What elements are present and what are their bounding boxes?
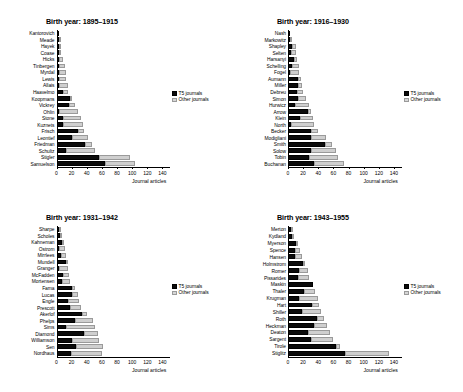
bar-row (288, 142, 332, 147)
bar-segment-other (298, 83, 303, 88)
legend-item-t5[interactable]: T5 journals (172, 284, 202, 289)
x-tick-label: 0 (55, 170, 58, 176)
x-tick-label: 0 (287, 170, 290, 176)
x-tick-mark (87, 167, 88, 169)
x-tick-mark (318, 167, 319, 169)
bar-row (57, 233, 63, 238)
bar-segment-other (304, 289, 315, 294)
x-tick-label: 60 (331, 359, 337, 365)
y-tick-label: Diamond (35, 331, 54, 336)
panel-title: Birth year: 1916–1930 (277, 17, 349, 26)
bar-segment-t5 (288, 248, 295, 253)
bar-row (288, 64, 299, 69)
panel-title: Birth year: 1943–1955 (277, 213, 349, 222)
y-tick-label: Engle (42, 299, 54, 304)
x-tick-label: 140 (390, 359, 398, 365)
bar-row (288, 275, 309, 280)
bar-segment-other (59, 57, 63, 62)
x-tick-label: 60 (331, 170, 337, 176)
bar-row (288, 103, 309, 108)
y-tick-label: Stiglitz (272, 351, 286, 356)
x-tick-mark (102, 167, 103, 169)
y-tick-label: Selten (272, 50, 286, 55)
y-tick-label: Deaton (271, 330, 286, 335)
legend-swatch-t5-icon (172, 91, 177, 96)
bar-segment-other (345, 351, 389, 356)
legend-item-t5[interactable]: T5 journals (404, 91, 434, 96)
y-tick-label: Debreu (270, 89, 286, 94)
legend-item-other[interactable]: Other journals (404, 97, 441, 102)
legend-item-t5[interactable]: T5 journals (172, 91, 202, 96)
y-tick-label: Maskin (271, 282, 286, 287)
legend-label: T5 journals (179, 284, 203, 289)
bar-segment-t5 (57, 148, 67, 153)
bar-segment-t5 (57, 96, 71, 101)
y-tick-label: Samuelson (30, 161, 54, 166)
x-tick-label: 80 (346, 359, 352, 365)
bar-row (57, 344, 103, 349)
chart-panel-4: Birth year: 1943–1955MertonKydlandMyerso… (232, 196, 463, 392)
legend-item-other[interactable]: Other journals (404, 290, 441, 295)
chart-panel-1: Birth year: 1895–1915KantorovichMeadeHay… (0, 0, 232, 196)
bar-row (288, 109, 311, 114)
bar-segment-other (59, 83, 69, 88)
legend-item-other[interactable]: Other journals (172, 290, 209, 295)
bar-row (57, 103, 75, 108)
bar-row (288, 129, 318, 134)
y-tick-label: Harsanyi (267, 57, 286, 62)
y-tick-label: Tinbergen (33, 63, 54, 68)
bar-segment-other (60, 233, 62, 238)
bar-row (288, 323, 327, 328)
bar-segment-other (325, 142, 332, 147)
plot-area (288, 30, 402, 167)
y-tick-label: Thaler (272, 289, 286, 294)
bar-segment-t5 (57, 344, 77, 349)
legend-label: Other journals (411, 290, 441, 295)
bar-segment-other (298, 77, 301, 82)
y-tick-label: Markowitz (264, 37, 286, 42)
x-tick-label: 40 (315, 170, 321, 176)
bar-row (288, 96, 306, 101)
x-tick-label: 40 (84, 359, 90, 365)
bar-row (57, 312, 87, 317)
bar-row (288, 122, 314, 127)
bar-segment-other (311, 129, 319, 134)
bar-row (288, 116, 313, 121)
y-tick-label: Granger (37, 266, 55, 271)
y-tick-label: Heckman (266, 323, 286, 328)
legend-swatch-other-icon (172, 98, 177, 103)
y-tick-label: Kantorovich (29, 31, 54, 36)
y-tick-label: Buchanan (264, 161, 286, 166)
panel-title: Birth year: 1931–1942 (46, 213, 118, 222)
y-tick-label: Sargent (269, 337, 286, 342)
x-tick-label: 120 (143, 359, 151, 365)
bar-row (288, 261, 305, 266)
legend-swatch-t5-icon (404, 284, 409, 289)
bar-row (57, 70, 67, 75)
y-tick-label: Kydland (269, 234, 286, 239)
x-tick-label: 100 (128, 359, 136, 365)
bar-segment-other (298, 96, 306, 101)
x-tick-mark (364, 167, 365, 169)
bar-row (288, 289, 315, 294)
legend-item-other[interactable]: Other journals (172, 97, 209, 102)
legend-item-t5[interactable]: T5 journals (404, 284, 434, 289)
x-axis-title: Journal articles (132, 367, 166, 373)
y-tick-label: Mirrlees (38, 253, 55, 258)
bar-row (57, 31, 59, 36)
bar-segment-other (302, 309, 320, 314)
bar-segment-other (314, 323, 327, 328)
bar-segment-other (66, 260, 68, 265)
bar-segment-other (76, 344, 102, 349)
bar-row (288, 50, 296, 55)
bar-row (57, 129, 85, 134)
bar-row (288, 227, 293, 232)
bar-segment-t5 (288, 96, 298, 101)
bar-row (57, 240, 65, 245)
legend-swatch-other-icon (172, 291, 177, 296)
bar-segment-other (292, 234, 294, 239)
y-tick-label: Hayek (41, 44, 55, 49)
x-tick-label: 140 (158, 170, 166, 176)
x-tick-label: 120 (375, 359, 383, 365)
y-tick-label: Modigliani (264, 135, 286, 140)
